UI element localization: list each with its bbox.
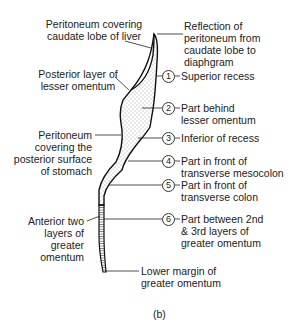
label-line: Reflection of: [184, 20, 260, 32]
label-front-transverse-mesocolon: Part in front of transverse mesocolon: [181, 155, 284, 179]
label-line: transverse mesocolon: [181, 167, 284, 179]
label-line: & 3rd layers of: [181, 225, 263, 237]
label-line: of stomach: [4, 165, 92, 177]
label-line: Peritoneum covering: [44, 18, 144, 30]
label-line: Part behind: [181, 102, 256, 114]
label-posterior-lesser-omentum: Posterior layer of lesser omentum: [36, 68, 120, 92]
label-line: peritoneum from: [184, 32, 260, 44]
label-line: Anterior two: [10, 215, 84, 227]
label-line: Lower margin of: [141, 265, 221, 277]
label-peritoneum-stomach: Peritoneum covering the posterior surfac…: [4, 129, 92, 177]
label-inferior-recess: Inferior of recess: [181, 132, 259, 144]
marker-3: 3: [162, 132, 175, 145]
label-line: Peritoneum: [4, 129, 92, 141]
label-peritoneum-caudate: Peritoneum covering caudate lobe of live…: [44, 18, 144, 42]
label-line: greater omentum: [181, 237, 263, 249]
label-part-behind-lesser-omentum: Part behind lesser omentum: [181, 102, 256, 126]
figure-caption: (b): [153, 308, 166, 320]
label-line: Inferior of recess: [181, 132, 259, 144]
label-line: Posterior layer of: [36, 68, 120, 80]
label-line: Part in front of: [181, 155, 284, 167]
label-superior-recess: Superior recess: [181, 70, 255, 82]
label-line: greater: [10, 239, 84, 251]
label-lower-margin-greater-omentum: Lower margin of greater omentum: [141, 265, 221, 289]
greater-omentum-strip: [99, 205, 106, 272]
label-line: greater omentum: [141, 277, 221, 289]
label-line: posterior surface: [4, 153, 92, 165]
label-between-layers-greater-omentum: Part between 2nd & 3rd layers of greater…: [181, 213, 263, 249]
label-anterior-greater-omentum: Anterior two layers of greater omentum: [10, 215, 84, 263]
marker-4: 4: [162, 155, 175, 168]
label-line: covering the: [4, 141, 92, 153]
label-line: lesser omentum: [36, 80, 120, 92]
label-line: omentum: [10, 251, 84, 263]
label-line: Part between 2nd: [181, 213, 263, 225]
marker-5: 5: [162, 179, 175, 192]
marker-2: 2: [162, 102, 175, 115]
label-line: layers of: [10, 227, 84, 239]
label-front-transverse-colon: Part in front of transverse colon: [181, 179, 258, 203]
label-line: caudate lobe of liver: [44, 30, 144, 42]
label-line: diaphgram: [184, 56, 260, 68]
label-reflection: Reflection of peritoneum from caudate lo…: [184, 20, 260, 68]
label-line: Superior recess: [181, 70, 255, 82]
label-line: transverse colon: [181, 191, 258, 203]
label-line: caudate lobe to: [184, 44, 260, 56]
marker-1: 1: [162, 70, 175, 83]
label-line: Part in front of: [181, 179, 258, 191]
label-line: lesser omentum: [181, 114, 256, 126]
marker-6: 6: [162, 213, 175, 226]
